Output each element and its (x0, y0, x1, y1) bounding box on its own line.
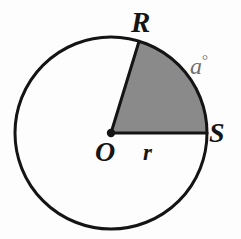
circle-diagram-svg (0, 0, 241, 239)
point-label-R: R (131, 8, 150, 37)
point-label-O: O (95, 138, 115, 166)
radius-label-r: r (143, 141, 152, 164)
circle-sector-figure: R S O r a° (0, 0, 241, 239)
degree-symbol-icon: ° (202, 52, 208, 68)
angle-label-a-degrees: a° (190, 54, 208, 78)
angle-variable: a (190, 53, 202, 79)
point-label-S: S (209, 119, 225, 147)
